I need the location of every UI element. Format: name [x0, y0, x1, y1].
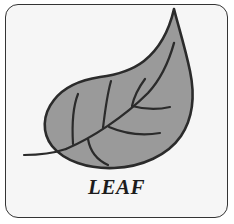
leaf-illustration	[6, 5, 228, 181]
leaf-caption: LEAF	[6, 177, 227, 198]
leaf-blade-shape	[45, 9, 193, 168]
leaf-card: LEAF	[5, 4, 228, 218]
